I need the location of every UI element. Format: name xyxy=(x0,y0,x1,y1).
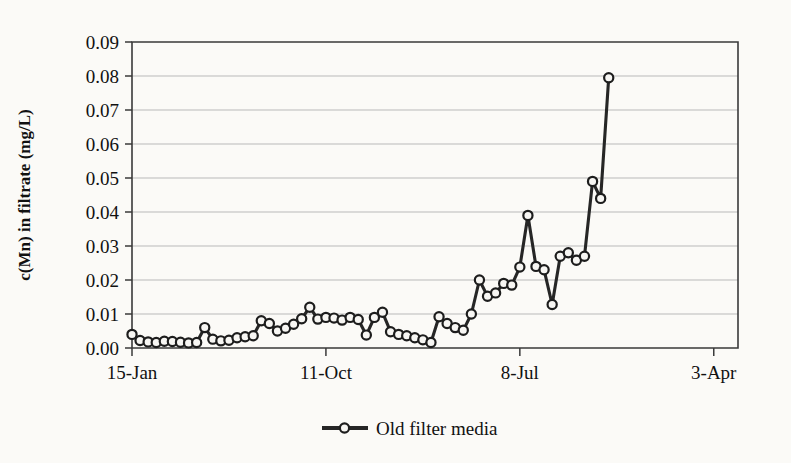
y-tick-label: 0.02 xyxy=(86,270,119,291)
data-point-marker xyxy=(515,262,524,271)
y-tick-label: 0.03 xyxy=(86,236,119,257)
y-tick-label: 0.05 xyxy=(86,168,119,189)
data-point-marker xyxy=(305,303,314,312)
x-tick-label: 8-Jul xyxy=(501,362,539,383)
data-point-marker xyxy=(588,177,597,186)
data-point-marker xyxy=(265,319,274,328)
y-tick-label: 0.01 xyxy=(86,304,119,325)
line-chart: 0.000.010.020.030.040.050.060.070.080.09… xyxy=(0,0,791,463)
y-tick-label: 0.07 xyxy=(86,100,119,121)
x-tick-label: 15-Jan xyxy=(107,362,158,383)
data-point-marker xyxy=(507,281,516,290)
data-point-marker xyxy=(362,330,371,339)
data-point-marker xyxy=(426,338,435,347)
data-point-marker xyxy=(475,275,484,284)
y-tick-label: 0.08 xyxy=(86,66,119,87)
chart-figure: 0.000.010.020.030.040.050.060.070.080.09… xyxy=(0,0,791,463)
x-tick-label: 3-Apr xyxy=(691,362,737,383)
y-tick-label: 0.09 xyxy=(86,32,119,53)
data-point-marker xyxy=(491,288,500,297)
data-point-marker xyxy=(200,323,209,332)
data-point-marker xyxy=(539,265,548,274)
data-point-marker xyxy=(459,326,468,335)
data-point-marker xyxy=(580,252,589,261)
data-point-marker xyxy=(604,73,613,82)
y-tick-label: 0.00 xyxy=(86,338,119,359)
data-point-marker xyxy=(523,211,532,220)
legend-marker-icon xyxy=(340,423,349,432)
data-point-marker xyxy=(434,312,443,321)
y-axis-title: c(Mn) in filtrate (mg/L) xyxy=(15,109,34,280)
data-point-marker xyxy=(354,315,363,324)
y-tick-label: 0.04 xyxy=(86,202,120,223)
data-point-marker xyxy=(378,308,387,317)
data-point-marker xyxy=(548,300,557,309)
data-point-marker xyxy=(596,194,605,203)
legend-label-old-filter-media: Old filter media xyxy=(376,418,498,439)
x-tick-label: 11-Oct xyxy=(300,362,353,383)
data-point-marker xyxy=(249,331,258,340)
data-point-marker xyxy=(564,248,573,257)
data-point-marker xyxy=(192,338,201,347)
data-point-marker xyxy=(467,309,476,318)
data-point-marker xyxy=(297,314,306,323)
y-tick-label: 0.06 xyxy=(86,134,119,155)
